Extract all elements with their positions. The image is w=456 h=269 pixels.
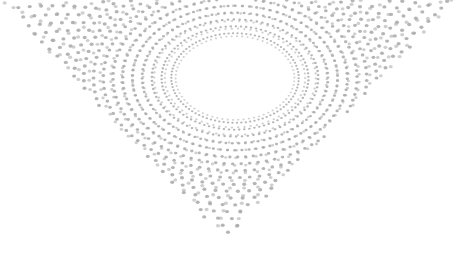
- dot-field: [3, 0, 454, 234]
- halftone-dot-artwork: [0, 0, 456, 269]
